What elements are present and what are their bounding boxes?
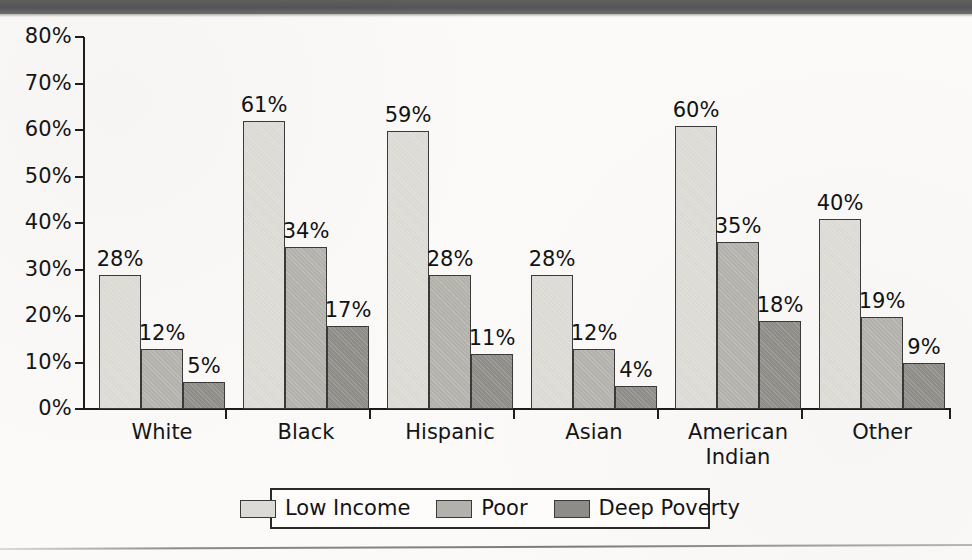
bar-value-label: 28% [529, 249, 576, 270]
legend-swatch-icon [436, 500, 472, 518]
legend-swatch-icon [554, 500, 590, 518]
y-axis-tick [75, 83, 84, 85]
y-axis-tick [75, 36, 84, 38]
bar[interactable] [759, 321, 801, 409]
x-axis-tick [513, 410, 515, 419]
x-axis-category-label: Black [231, 420, 381, 445]
bar-slot: 12% [573, 37, 615, 409]
bar-group: 61%34%17% [243, 37, 369, 409]
bar-slot: 4% [615, 37, 657, 409]
bar-value-label: 28% [427, 249, 474, 270]
bar-value-label: 12% [571, 323, 618, 344]
bar-value-label: 28% [97, 249, 144, 270]
grouped-bar-chart: 0%10%20%30%40%50%60%70%80% 28%12%5%61%34… [0, 0, 972, 560]
bar-value-label: 35% [715, 216, 762, 237]
y-axis-tick [75, 129, 84, 131]
bar-value-label: 40% [817, 193, 864, 214]
bar-slot: 9% [903, 37, 945, 409]
bar[interactable] [717, 242, 759, 409]
bar[interactable] [903, 363, 945, 409]
y-axis-label: 50% [8, 166, 72, 187]
bar-group: 60%35%18% [675, 37, 801, 409]
y-axis-label: 20% [8, 305, 72, 326]
bar[interactable] [327, 326, 369, 409]
y-axis-tick [75, 362, 84, 364]
x-axis-end-tick [949, 410, 951, 419]
bar-value-label: 59% [385, 105, 432, 126]
bar-slot: 34% [285, 37, 327, 409]
bar-slot: 28% [531, 37, 573, 409]
bar[interactable] [615, 386, 657, 409]
bar-value-label: 18% [757, 295, 804, 316]
y-axis-tick [75, 408, 84, 410]
bar-group: 28%12%4% [531, 37, 657, 409]
bar-value-label: 4% [619, 360, 652, 381]
x-axis-tick [801, 410, 803, 419]
x-axis-tick [657, 410, 659, 419]
legend-label: Deep Poverty [599, 498, 740, 519]
legend-swatch-icon [240, 500, 276, 518]
bar-slot: 11% [471, 37, 513, 409]
y-axis-tick [75, 315, 84, 317]
plot-area: 28%12%5%61%34%17%59%28%11%28%12%4%60%35%… [85, 37, 951, 409]
x-axis-category-line: Hispanic [375, 420, 525, 445]
bar-slot: 60% [675, 37, 717, 409]
bar[interactable] [183, 382, 225, 409]
bar-value-label: 61% [241, 95, 288, 116]
bar[interactable] [573, 349, 615, 409]
x-axis-category-line: Asian [519, 420, 669, 445]
bar-slot: 18% [759, 37, 801, 409]
bar[interactable] [471, 354, 513, 409]
bar-slot: 61% [243, 37, 285, 409]
bar[interactable] [285, 247, 327, 409]
bar[interactable] [387, 131, 429, 409]
legend-label: Low Income [285, 498, 410, 519]
bar-group: 28%12%5% [99, 37, 225, 409]
chart-legend: Low IncomePoorDeep Poverty [270, 488, 710, 529]
bar-slot: 59% [387, 37, 429, 409]
y-axis-tick [75, 222, 84, 224]
x-axis-category-label: Asian [519, 420, 669, 445]
x-axis-category-label: Other [807, 420, 957, 445]
bar-slot: 40% [819, 37, 861, 409]
bar-value-label: 11% [469, 328, 516, 349]
legend-item[interactable]: Poor [436, 498, 527, 519]
x-axis-category-label: AmericanIndian [663, 420, 813, 470]
bar-slot: 35% [717, 37, 759, 409]
bar-value-label: 34% [283, 221, 330, 242]
bar[interactable] [141, 349, 183, 409]
legend-label: Poor [481, 498, 527, 519]
y-axis-label: 70% [8, 73, 72, 94]
legend-item[interactable]: Deep Poverty [554, 498, 740, 519]
bar[interactable] [861, 317, 903, 409]
y-axis-tick [75, 176, 84, 178]
legend-item[interactable]: Low Income [240, 498, 410, 519]
x-axis-category-label: White [87, 420, 237, 445]
bar-slot: 28% [99, 37, 141, 409]
bar-value-label: 12% [139, 323, 186, 344]
bar-slot: 28% [429, 37, 471, 409]
bar-value-label: 60% [673, 100, 720, 121]
bar-slot: 5% [183, 37, 225, 409]
bar[interactable] [429, 275, 471, 409]
x-axis-tick [225, 410, 227, 419]
bar[interactable] [675, 126, 717, 409]
bar[interactable] [819, 219, 861, 409]
y-axis-label: 80% [8, 26, 72, 47]
bar[interactable] [99, 275, 141, 409]
bar-value-label: 17% [325, 300, 372, 321]
bar-value-label: 9% [907, 337, 940, 358]
x-axis-category-label: Hispanic [375, 420, 525, 445]
bar[interactable] [531, 275, 573, 409]
x-axis-tick [369, 410, 371, 419]
y-axis-label: 60% [8, 119, 72, 140]
bar-value-label: 19% [859, 291, 906, 312]
y-axis-label: 10% [8, 352, 72, 373]
bar-value-label: 5% [187, 356, 220, 377]
bar-slot: 12% [141, 37, 183, 409]
y-axis-tick-labels: 0%10%20%30%40%50%60%70%80% [8, 0, 72, 430]
bar-group: 59%28%11% [387, 37, 513, 409]
bar[interactable] [243, 121, 285, 409]
x-axis-category-line: Black [231, 420, 381, 445]
y-axis-tick [75, 269, 84, 271]
